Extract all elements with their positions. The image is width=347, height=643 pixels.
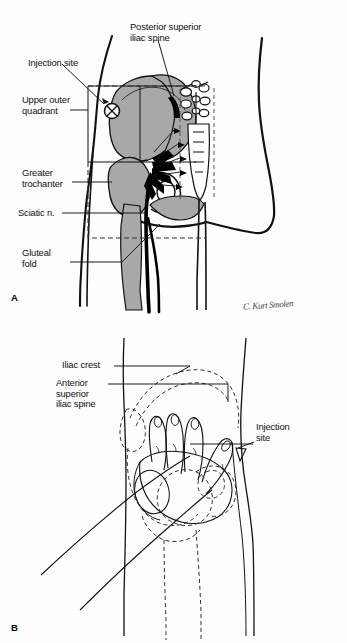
body-outline-left-b: [123, 338, 126, 636]
label-posterior-superior-iliac-spine: Posterior superior iliac spine: [130, 22, 201, 43]
label-greater-trochanter: Greater trochanter: [22, 168, 63, 189]
panel-b-illustration: [0, 330, 347, 643]
gluteal-cleft: [197, 200, 199, 310]
panel-b-ventrogluteal-site: Iliac crest Anterior superior iliac spin…: [0, 330, 347, 643]
ischium-fill: [150, 196, 204, 220]
panel-letter-a: A: [11, 292, 18, 303]
label-injection-site-b: Injection site: [256, 422, 290, 443]
figure-root: Injection site Upper outer quadrant Post…: [0, 0, 347, 643]
label-upper-outer-quadrant: Upper outer quadrant: [22, 95, 70, 116]
injection-site-marker: [105, 104, 120, 119]
index-finger-outline: [149, 416, 166, 470]
label-iliac-crest: Iliac crest: [62, 360, 100, 371]
greater-trochanter-dashed: [198, 470, 225, 498]
forearm-upper-line: [41, 456, 190, 575]
label-anterior-superior-iliac-spine: Anterior superior iliac spine: [56, 378, 96, 410]
label-gluteal-fold: Gluteal fold: [22, 248, 51, 269]
femur-shaft-fill: [121, 204, 142, 310]
body-outline-left: [80, 36, 112, 306]
femur-dashed: [164, 530, 201, 640]
gluteal-cleft-2: [205, 202, 206, 310]
body-outline-right-b: [241, 338, 254, 636]
forearm-lower-line: [80, 490, 212, 610]
label-injection-site-a: Injection site: [28, 58, 78, 69]
label-sciatic-nerve: Sciatic n.: [18, 208, 55, 219]
panel-a-illustration: [0, 0, 347, 330]
iliac-crest-dashed: [130, 370, 239, 428]
anterior-superior-iliac-spine-dashed: [120, 409, 145, 452]
panel-a-dorsogluteal-site: Injection site Upper outer quadrant Post…: [0, 0, 347, 330]
right-buttock-curve: [206, 216, 274, 233]
leader-lines-panel-b: [108, 366, 254, 448]
panel-letter-b: B: [11, 622, 18, 633]
body-outline-right: [259, 38, 275, 216]
